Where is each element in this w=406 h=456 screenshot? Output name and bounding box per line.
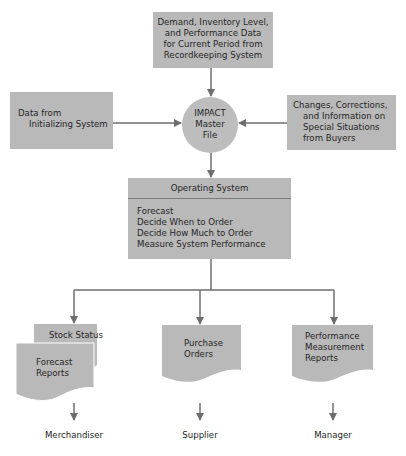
box-line: and Information on (303, 111, 385, 122)
document-line: Reports (36, 368, 72, 379)
box-line: Changes, Corrections, (293, 100, 388, 111)
box-line: Initializing System (29, 119, 108, 130)
performance-reports-label: Performance Measurement Reports (305, 331, 364, 364)
purchase-orders-label: Purchase Orders (184, 338, 223, 360)
impact-master-file: IMPACT Master File (182, 97, 238, 153)
operating-function: Measure System Performance (137, 239, 266, 250)
recipient-merchandiser: Merchandiser (34, 430, 114, 441)
recipient-supplier: Supplier (160, 430, 240, 441)
operating-function: Forecast (137, 206, 266, 217)
document-line: Measurement (305, 342, 364, 353)
master-file-line: Master (182, 119, 238, 130)
operating-system-title: Operating System (128, 183, 291, 194)
buyer-changes-box: Changes, Corrections, and Information on… (287, 95, 396, 150)
recipient-manager: Manager (293, 430, 373, 441)
document-line: Forecast (36, 357, 72, 368)
stock-status-label: Stock Status (49, 330, 103, 341)
box-line: for Current Period from (153, 39, 273, 50)
master-file-line: File (182, 130, 238, 141)
box-line: Data from (18, 108, 61, 119)
initializing-system-box: Data from Initializing System (10, 92, 113, 149)
box-line: Special Situations (303, 122, 380, 133)
operating-system-box: Operating System Forecast Decide When to… (128, 178, 291, 259)
document-line: Orders (184, 349, 223, 360)
current-period-data-box: Demand, Inventory Level, and Performance… (153, 12, 273, 68)
document-line: Performance (305, 331, 364, 342)
document-line: Purchase (184, 338, 223, 349)
box-line: and Performance Data (153, 28, 273, 39)
operating-function: Decide When to Order (137, 217, 266, 228)
operating-function: Decide How Much to Order (137, 228, 266, 239)
box-line: from Buyers (303, 133, 355, 144)
operating-system-divider (128, 198, 291, 199)
box-line: Recordkeeping System (153, 50, 273, 61)
box-line: Demand, Inventory Level, (153, 17, 273, 28)
forecast-reports-label: Forecast Reports (36, 357, 72, 379)
document-line: Reports (305, 353, 364, 364)
master-file-line: IMPACT (182, 108, 238, 119)
